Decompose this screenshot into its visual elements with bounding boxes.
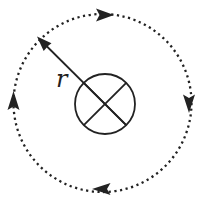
radius-label: r [56, 65, 69, 93]
orbit-arrow-top-icon [96, 9, 114, 22]
circled-cross-icon [75, 74, 135, 134]
orbit-arrow-bottom-icon [92, 183, 111, 195]
diagram-canvas: r [0, 0, 207, 210]
circular-motion-figure: r [0, 0, 207, 210]
orbit-arrow-right-icon [183, 95, 195, 114]
